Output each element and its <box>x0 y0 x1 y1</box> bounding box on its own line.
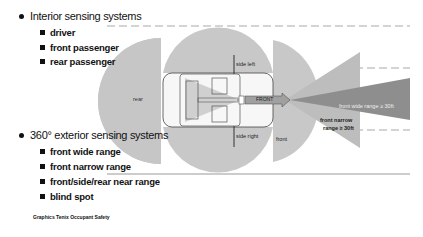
label-front-narrow-2: range ≥ 30ft <box>323 125 354 131</box>
side-left-zone <box>163 28 273 73</box>
label-rear: rear <box>133 96 143 102</box>
footer-text: Graphics Tenix Occupant Safety <box>33 214 110 220</box>
square-bullet-icon <box>40 30 45 35</box>
square-bullet-icon <box>40 194 45 199</box>
item-blind-spot: blind spot <box>40 191 93 202</box>
item-rear-passenger: rear passenger <box>40 56 115 67</box>
label-front-narrow-1: front narrow <box>320 117 352 123</box>
square-bullet-icon <box>40 164 45 169</box>
item-front-narrow-range: front narrow range <box>40 161 131 172</box>
label-side-right: side right <box>236 133 258 139</box>
label-side-left: side left <box>236 61 255 67</box>
label-front: front <box>276 136 287 142</box>
heading-exterior-sensing: 360° exterior sensing systems <box>19 129 168 141</box>
item-front-passenger: front passenger <box>40 42 119 53</box>
square-bullet-icon <box>40 179 45 184</box>
item-front-wide-range: front wide range <box>40 146 121 157</box>
label-front-wide-range: front wide range ≥ 30ft <box>339 103 394 109</box>
bullet-icon <box>19 14 24 19</box>
square-bullet-icon <box>40 149 45 154</box>
bullet-icon <box>19 133 24 138</box>
item-near-range: front/side/rear near range <box>40 176 160 187</box>
square-bullet-icon <box>40 59 45 64</box>
square-bullet-icon <box>40 45 45 50</box>
heading-interior-sensing: Interior sensing systems <box>19 10 141 22</box>
item-driver: driver <box>40 27 75 38</box>
label-front-arrow: FRONT <box>256 96 273 102</box>
